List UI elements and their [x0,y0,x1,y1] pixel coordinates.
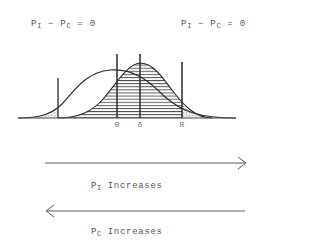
overlap-hatch-region [0,46,260,118]
equation-right-p1-sub: I [187,22,192,30]
equation-left-p1-sub: I [37,22,42,30]
equation-right-equals: = [227,19,233,29]
arrow-pc-increases [46,205,245,217]
axis-label-origin: 0 [109,121,125,129]
equation-right-value: 0 [240,19,246,29]
equation-left-equals: = [77,19,83,29]
caption-pc-rest: Increases [102,227,163,237]
equation-left: PI − PC = 0 [31,20,96,30]
caption-pc-increases: PC Increases [91,228,163,238]
equation-right-minus: − [198,19,204,29]
distribution-plot [0,46,260,136]
figure-root: PI − PC = 0 PI − PC = 0 [0,0,317,247]
axis-label-radius: R [174,121,190,129]
arrow-pi-increases [45,157,246,169]
plot-svg [0,46,260,136]
equation-left-p2-sub: C [67,22,72,30]
caption-pi-rest: Increases [102,181,163,191]
equation-left-value: 0 [90,19,96,29]
equation-right: PI − PC = 0 [181,20,246,30]
caption-pi-increases: PI Increases [91,182,163,192]
axis-label-delta: δ [132,121,148,129]
equation-right-p2-sub: C [217,22,222,30]
equation-left-minus: − [48,19,54,29]
